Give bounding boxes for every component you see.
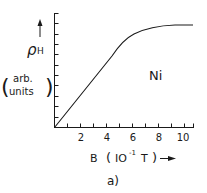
x-tick-labels: 2 4 6 8 10 [78,132,190,143]
ni-hall-curve [55,25,194,128]
x-label-close: ) [152,150,157,165]
rho-symbol: ρ [27,41,37,59]
x-label-unit: T [140,152,148,165]
y-axis-label: ρ H ( arb. units ) [1,19,54,99]
units-line2: units [9,86,34,97]
panel-label: a) [107,174,119,188]
x-ticks [68,124,194,128]
paren-close: ) [45,74,54,99]
x-tick-label: 10 [177,132,190,143]
x-tick-label: 4 [104,132,110,143]
x-label-B: B [90,152,98,165]
arrow-up-icon [38,19,43,26]
x-tick-label: 6 [130,132,136,143]
x-axis-label: B ( IO -1 T ) [90,149,176,165]
x-tick-label: 2 [78,132,84,143]
axes [54,13,194,128]
units-line1: arb. [13,73,33,84]
x-label-exp: -1 [129,149,136,157]
rho-subscript: H [37,46,44,56]
material-label-ni: Ni [149,68,162,83]
x-tick-label: 8 [156,132,162,143]
arrow-right-icon [168,156,176,161]
hall-resistivity-chart: 2 4 6 8 10 ρ H ( arb. units ) Ni B ( IO … [0,0,207,193]
x-label-open: ( [106,150,111,165]
y-ticks [55,14,59,118]
x-label-base: IO [115,152,127,165]
